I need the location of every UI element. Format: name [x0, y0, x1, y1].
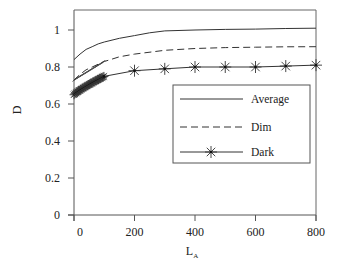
- y-tick-label: 0.8: [45, 60, 60, 74]
- legend-box: [173, 85, 310, 163]
- y-tick-label: 0.2: [45, 171, 60, 185]
- x-axis-title-main: L: [186, 244, 193, 258]
- chart: 00.20.40.60.81 0200400600800 AverageDimD…: [0, 0, 340, 268]
- dark-series-marker: [159, 63, 171, 75]
- y-tick-label: 0.4: [45, 134, 60, 148]
- legend-label-average: Average: [251, 93, 289, 106]
- x-tick-label: 400: [186, 225, 204, 239]
- dark-series-marker: [189, 61, 201, 73]
- x-axis-title: LA: [186, 244, 198, 260]
- x-tick-label: 200: [126, 225, 144, 239]
- y-axis-title: D: [10, 105, 24, 114]
- y-tick-label: 1: [54, 23, 60, 37]
- y-tick-label: 0.6: [45, 97, 60, 111]
- x-axis-ticks: 0200400600800: [74, 215, 325, 239]
- dark-series-marker: [310, 59, 322, 71]
- x-axis-title-subscript: A: [193, 252, 198, 260]
- x-tick-label: 600: [247, 225, 265, 239]
- dark-dense-marker: [99, 72, 108, 81]
- x-tick-label: 0: [77, 225, 83, 239]
- y-tick-label: 0: [54, 208, 60, 222]
- legend: AverageDimDark: [173, 85, 310, 163]
- legend-label-dark: Dark: [251, 146, 274, 158]
- dark-series-marker: [129, 65, 141, 77]
- x-tick-label: 800: [307, 225, 325, 239]
- legend-label-dim: Dim: [251, 121, 272, 133]
- dark-series-marker: [250, 61, 262, 73]
- legend-asterisk-marker: [205, 146, 217, 158]
- line-chart-canvas: 00.20.40.60.81 0200400600800 AverageDimD…: [0, 0, 340, 268]
- dark-series-marker: [280, 60, 292, 72]
- series-average-line: [74, 28, 316, 59]
- y-axis-ticks: 00.20.40.60.81: [45, 23, 74, 222]
- dark-series-marker: [219, 61, 231, 73]
